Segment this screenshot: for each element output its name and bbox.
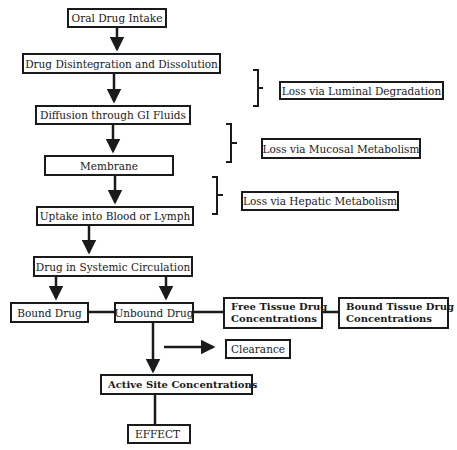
box-loss-mucosal: Loss via Mucosal Metabolism (261, 138, 421, 159)
bracket-hepatic-icon (212, 177, 223, 214)
box-loss-hepatic: Loss via Hepatic Metabolism (241, 191, 399, 211)
box-active-site-concentrations: Active Site Concentrations (100, 374, 253, 395)
free-tissue-line1: Free Tissue Drug (231, 301, 327, 313)
bracket-mucosal-icon (226, 124, 237, 162)
box-disintegration-dissolution: Drug Disintegration and Dissolution (22, 53, 221, 74)
box-systemic-circulation: Drug in Systemic Circulation (33, 256, 193, 277)
box-oral-drug-intake: Oral Drug Intake (67, 8, 167, 28)
box-unbound-drug: Unbound Drug (114, 302, 194, 323)
box-diffusion-gi-fluids: Diffusion through GI Fluids (35, 105, 191, 125)
bound-tissue-line1: Bound Tissue Drug (346, 301, 454, 313)
box-free-tissue-concentrations: Free Tissue Drug Concentrations (223, 297, 323, 329)
box-membrane: Membrane (44, 155, 174, 176)
box-loss-luminal: Loss via Luminal Degradation (279, 81, 444, 100)
box-clearance: Clearance (225, 339, 291, 359)
bound-tissue-line2: Concentrations (346, 313, 432, 325)
bracket-luminal-icon (253, 70, 263, 106)
box-bound-tissue-concentrations: Bound Tissue Drug Concentrations (338, 297, 449, 329)
box-effect: EFFECT (127, 424, 191, 444)
free-tissue-line2: Concentrations (231, 313, 317, 325)
box-bound-drug: Bound Drug (10, 302, 89, 323)
box-uptake-blood-lymph: Uptake into Blood or Lymph (36, 206, 194, 226)
